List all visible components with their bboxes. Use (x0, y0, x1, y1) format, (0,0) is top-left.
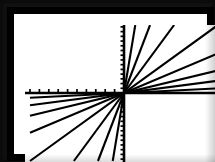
calculator-screen (0, 0, 215, 162)
screen-bezel (7, 7, 214, 161)
screen-frame (0, 0, 215, 162)
axes-group (25, 25, 215, 162)
plot-area[interactable] (25, 25, 215, 162)
plot-canvas (25, 25, 215, 162)
